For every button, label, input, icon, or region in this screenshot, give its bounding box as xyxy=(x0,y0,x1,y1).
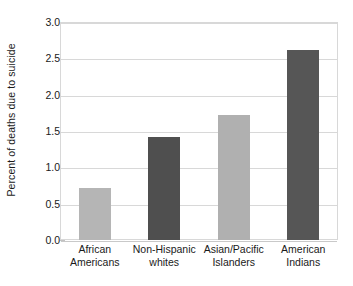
bar[interactable] xyxy=(287,50,319,240)
x-axis-label-line: whites xyxy=(130,256,200,269)
y-tick-label: 0.0 xyxy=(26,234,60,246)
y-tick-label: 3.0 xyxy=(26,16,60,28)
x-axis-labels: AfricanAmericansNon-HispanicwhitesAsian/… xyxy=(60,243,338,283)
bars-container xyxy=(60,22,338,240)
bar-chart-figure: Percent of deaths due to suicide 3.02.52… xyxy=(0,0,353,286)
bar-slot xyxy=(60,22,130,240)
x-axis-label-line: Americans xyxy=(60,256,130,269)
y-tick-label: 2.5 xyxy=(26,52,60,64)
x-axis-label-line: American xyxy=(269,243,339,256)
bar[interactable] xyxy=(79,188,111,240)
x-axis-label-line: Islanders xyxy=(199,256,269,269)
y-tick-label: 1.0 xyxy=(26,161,60,173)
bar[interactable] xyxy=(218,115,250,240)
x-axis-label-line: African xyxy=(60,243,130,256)
y-tick-label: 2.0 xyxy=(26,89,60,101)
x-axis-label-line: Asian/Pacific xyxy=(199,243,269,256)
y-tick-label: 0.5 xyxy=(26,198,60,210)
x-axis-label: Non-Hispanicwhites xyxy=(130,243,200,268)
y-axis-ticks: 3.02.52.01.51.00.50.0 xyxy=(18,22,60,240)
bar-slot xyxy=(199,22,269,240)
x-axis-label: AfricanAmericans xyxy=(60,243,130,268)
x-axis-label: AmericanIndians xyxy=(269,243,339,268)
y-tick-label: 1.5 xyxy=(26,125,60,137)
y-axis-title-text: Percent of deaths due to suicide xyxy=(5,43,17,196)
x-axis-label-line: Indians xyxy=(269,256,339,269)
gridline-0 xyxy=(61,241,337,242)
bar-slot xyxy=(130,22,200,240)
bar-slot xyxy=(269,22,339,240)
x-axis-label: Asian/PacificIslanders xyxy=(199,243,269,268)
bar[interactable] xyxy=(148,137,180,240)
x-axis-label-line: Non-Hispanic xyxy=(130,243,200,256)
